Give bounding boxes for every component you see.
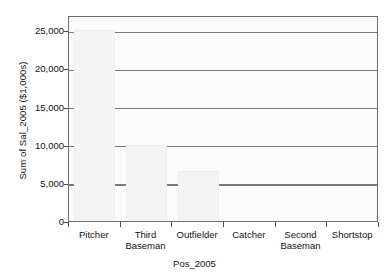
bar[interactable]: [178, 171, 219, 221]
bars-layer: [69, 17, 377, 221]
bar[interactable]: [126, 145, 167, 221]
y-axis-tick-labels: 0 5,000 10,000 15,000 20,000 25,000: [18, 0, 64, 279]
x-tickmark: [378, 222, 379, 227]
x-tickmark: [171, 222, 172, 227]
y-tick-label: 20,000: [20, 64, 64, 74]
y-tick-label: 5,000: [20, 179, 64, 189]
y-tick-label: 0: [20, 217, 64, 227]
x-tick-label: Shortstop: [320, 229, 384, 240]
plot-area: [68, 16, 378, 222]
x-tick-label-line: Baseman: [114, 240, 178, 251]
x-tick-label-line: Shortstop: [320, 229, 384, 240]
bar[interactable]: [74, 30, 115, 221]
bar-chart: Sum of Sal_2005 ($1,000s) 0 5,000 10,000…: [0, 0, 389, 279]
x-tickmark: [326, 222, 327, 227]
x-tick-label-line: Baseman: [269, 240, 333, 251]
y-tick-label: 15,000: [20, 103, 64, 113]
x-tickmark: [120, 222, 121, 227]
y-tick-label: 25,000: [20, 26, 64, 36]
x-tickmark: [223, 222, 224, 227]
x-tickmark: [68, 222, 69, 227]
x-axis-title: Pos_2005: [0, 258, 389, 269]
y-tick-label: 10,000: [20, 141, 64, 151]
x-tickmark: [275, 222, 276, 227]
